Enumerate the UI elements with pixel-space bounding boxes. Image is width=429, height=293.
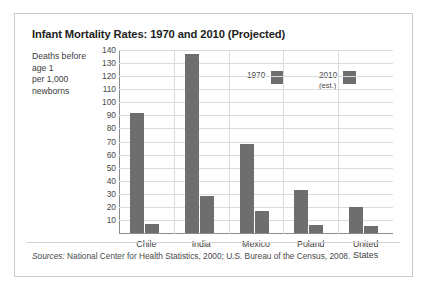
y-axis-tick-label: 60 [107,150,116,160]
y-axis-tick-label: 130 [102,58,116,68]
y-axis-tick-label: 40 [107,176,116,186]
x-axis-tick-label-line: States [353,250,378,261]
bar-poland-1970 [294,190,308,233]
x-axis-line [119,233,393,234]
category-separator [174,50,175,234]
bar-india-1970 [185,54,199,233]
y-axis-tick-label: 30 [107,189,116,199]
bar-india-2010 [200,196,214,233]
chart-title: Infant Mortality Rates: 1970 and 2010 (P… [32,28,285,40]
gridline [119,63,393,64]
gridline [119,181,393,182]
y-axis-caption-line-3: per 1,000 [32,74,104,86]
plot-inner: 102030405060708090100110120130140ChileIn… [119,50,393,234]
category-separator [283,50,284,234]
y-axis-caption-line-2: age 1 [32,63,104,75]
y-axis-caption-line-4: newborns [32,86,104,98]
bar-mexico-1970 [240,144,254,233]
bar-chile-2010 [145,224,159,233]
y-axis-tick-label: 20 [107,202,116,212]
gridline [119,194,393,195]
bar-united-states-1970 [349,207,363,233]
bar-chile-1970 [130,113,144,233]
bar-united-states-2010 [364,226,378,233]
y-axis-caption: Deaths before age 1 per 1,000 newborns [32,51,104,97]
bar-poland-2010 [309,225,323,233]
gridline [119,128,393,129]
x-axis-tick-label-line: India [192,239,211,250]
gridline [119,50,393,51]
gridline [119,168,393,169]
x-axis-tick-label: Chile [136,239,156,250]
y-axis-tick-label: 50 [107,163,116,173]
x-axis-tick-label-line: Poland [297,239,324,250]
plot-area: 102030405060708090100110120130140ChileIn… [119,50,393,234]
sources-note: Sources: National Center for Health Stat… [32,251,350,261]
category-separator [338,50,339,234]
x-axis-tick-label-line: United [353,239,378,250]
y-axis-tick-label: 90 [107,110,116,120]
x-axis-tick-label: Poland [297,239,324,250]
sources-text: National Center for Health Statistics, 2… [65,251,350,261]
chart-figure: Infant Mortality Rates: 1970 and 2010 (P… [14,13,413,277]
y-axis-tick-label: 140 [102,45,116,55]
x-axis-tick-label-line: Chile [136,239,156,250]
x-axis-tick-label: Mexico [242,239,270,250]
gridline [119,115,393,116]
gridline [119,155,393,156]
y-axis-tick-label: 120 [102,71,116,81]
gridline [119,102,393,103]
sources-label: Sources: [32,251,65,261]
footer-divider [27,242,400,243]
gridline [119,76,393,77]
y-axis-caption-line-1: Deaths before [32,51,104,63]
y-axis-tick-label: 110 [103,84,116,94]
y-axis-tick-label: 70 [107,137,116,147]
x-axis-tick-label-line: Mexico [242,239,270,250]
y-axis-tick-label: 10 [107,215,116,225]
category-separator [229,50,230,234]
bar-mexico-2010 [255,211,269,233]
y-axis-tick-label: 80 [107,123,116,133]
x-axis-tick-label: India [192,239,211,250]
gridline [119,89,393,90]
y-axis-tick-label: 100 [102,97,116,107]
gridline [119,142,393,143]
